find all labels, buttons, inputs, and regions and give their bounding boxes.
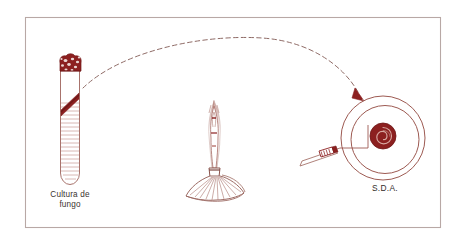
petri-dish: [340, 96, 425, 180]
figure-root: Cultura de fungo: [0, 0, 464, 249]
cotton-plug: [60, 54, 81, 71]
test-tube: [60, 54, 81, 185]
tube-label-line1: Cultura de: [50, 190, 90, 199]
diagram-canvas: Cultura de fungo: [0, 0, 464, 249]
fungal-colony: [370, 123, 396, 149]
plate-label: S.D.A.: [372, 183, 398, 193]
tube-label-line2: fungo: [59, 200, 81, 209]
